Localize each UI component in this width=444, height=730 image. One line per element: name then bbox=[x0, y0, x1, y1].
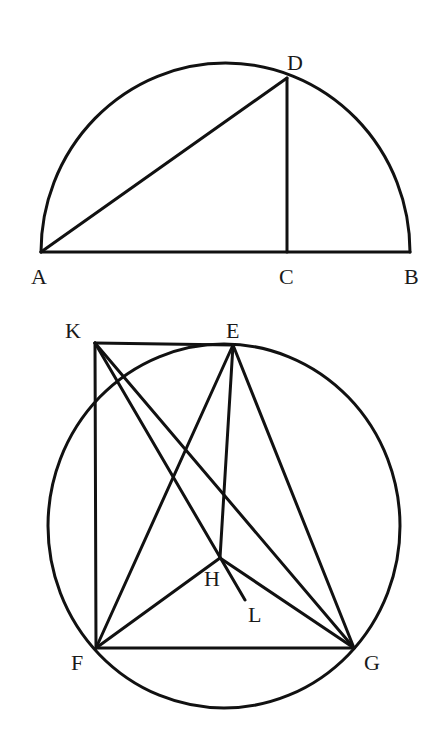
segment-ke bbox=[95, 343, 233, 345]
circle-figure: K E F G H L bbox=[48, 318, 400, 708]
segment-eh bbox=[220, 345, 233, 558]
arc-ab bbox=[41, 63, 410, 252]
segment-kf bbox=[95, 343, 96, 648]
label-c: C bbox=[279, 264, 294, 289]
segment-fh bbox=[96, 558, 220, 648]
label-l: L bbox=[248, 602, 261, 627]
label-e: E bbox=[226, 318, 239, 343]
geometry-diagram: A B C D K E F G H L bbox=[0, 0, 444, 730]
segment-ef bbox=[96, 345, 233, 648]
segment-ad bbox=[41, 78, 287, 252]
segment-hg bbox=[220, 558, 354, 648]
label-f: F bbox=[71, 650, 83, 675]
semicircle-figure: A B C D bbox=[31, 50, 419, 289]
label-k: K bbox=[65, 318, 81, 343]
label-h: H bbox=[204, 566, 220, 591]
label-g: G bbox=[364, 650, 380, 675]
label-d: D bbox=[287, 50, 303, 75]
label-a: A bbox=[31, 264, 47, 289]
label-b: B bbox=[404, 264, 419, 289]
circle-efg bbox=[48, 344, 400, 708]
